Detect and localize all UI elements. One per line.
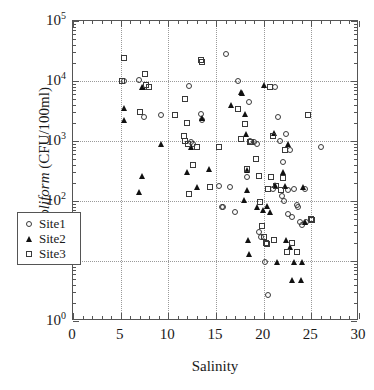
marker-open-circle <box>199 117 205 123</box>
x-tick-major <box>359 313 360 319</box>
legend-label: Site3 <box>39 246 66 262</box>
marker-open-circle <box>289 214 295 220</box>
y-tick-right-minor <box>354 52 357 53</box>
marker-open-square <box>270 133 276 139</box>
y-tick-right-minor <box>354 285 357 286</box>
y-axis-label-plain: (CFU/100ml) <box>36 87 52 172</box>
y-tick-right-minor <box>354 30 357 31</box>
marker-open-square <box>267 84 273 90</box>
marker-filled-triangle <box>139 84 145 90</box>
marker-open-square <box>242 121 248 127</box>
marker-filled-triangle <box>243 131 249 137</box>
y-tick-minor <box>73 87 76 88</box>
marker-open-square <box>280 175 286 181</box>
marker-open-square <box>207 184 213 190</box>
x-tick-minor <box>292 316 293 319</box>
x-tick-top-minor <box>102 21 103 24</box>
x-tick-top-minor <box>340 21 341 24</box>
y-tick-minor <box>73 303 76 304</box>
marker-open-square <box>199 59 205 65</box>
y-tick-right-minor <box>354 63 357 64</box>
marker-open-square <box>282 147 288 153</box>
y-tick-right-minor <box>354 243 357 244</box>
y-tick-label-exponent: 3 <box>61 130 66 141</box>
marker-open-circle <box>283 131 289 137</box>
y-tick-minor <box>73 172 76 173</box>
x-tick-top-minor <box>130 21 131 24</box>
x-tick-minor <box>149 316 150 319</box>
x-tick-top-minor <box>140 21 141 24</box>
x-tick-label: 5 <box>116 326 124 343</box>
marker-filled-triangle <box>289 277 295 283</box>
x-tick-major <box>73 313 74 319</box>
y-tick-minor <box>73 154 76 155</box>
marker-open-circle <box>279 193 285 199</box>
x-tick-top-major <box>359 21 360 27</box>
legend[interactable]: Site1Site2Site3 <box>17 212 81 265</box>
legend-item-site1[interactable]: Site1 <box>22 216 76 231</box>
marker-filled-triangle <box>206 166 212 172</box>
marker-filled-triangle <box>184 169 190 175</box>
x-tick-label: 25 <box>303 326 318 343</box>
legend-item-site3[interactable]: Site3 <box>22 246 76 261</box>
y-tick-right-minor <box>354 112 357 113</box>
x-tick-label: 15 <box>208 326 223 343</box>
x-tick-minor <box>321 316 322 319</box>
y-tick-right-major <box>351 321 357 322</box>
y-tick-right-minor <box>354 94 357 95</box>
x-tick-top-minor <box>235 21 236 24</box>
legend-item-site2[interactable]: Site2 <box>22 231 76 246</box>
legend-swatch <box>22 236 36 242</box>
legend-swatch <box>22 251 36 257</box>
legend-label: Site1 <box>39 216 66 232</box>
marker-open-square <box>256 173 262 179</box>
y-tick-minor <box>73 84 76 85</box>
gridline-horizontal <box>73 141 357 142</box>
y-tick-right-minor <box>354 183 357 184</box>
y-tick-minor <box>73 30 76 31</box>
x-tick-minor <box>245 316 246 319</box>
marker-filled-triangle <box>139 173 145 179</box>
y-tick-minor <box>73 150 76 151</box>
marker-open-square <box>26 251 32 257</box>
x-tick-minor <box>111 316 112 319</box>
x-tick-label: 0 <box>68 326 76 343</box>
marker-filled-triangle <box>194 184 200 190</box>
y-tick-right-minor <box>354 99 357 100</box>
y-tick-minor <box>73 270 76 271</box>
marker-open-square <box>235 106 241 112</box>
x-axis-label: Salinity <box>72 358 358 375</box>
marker-open-square <box>244 166 250 172</box>
marker-open-square <box>186 191 192 197</box>
y-tick-right-minor <box>354 207 357 208</box>
y-tick-label-exponent: 5 <box>61 10 66 21</box>
marker-open-square <box>194 144 200 150</box>
y-tick-major <box>73 141 79 142</box>
y-tick-major <box>73 21 79 22</box>
y-tick-right-minor <box>354 225 357 226</box>
y-tick-right-minor <box>354 159 357 160</box>
y-tick-label-exponent: 2 <box>61 190 66 201</box>
x-tick-major <box>121 313 122 319</box>
gridline-vertical <box>216 21 217 319</box>
marker-filled-triangle <box>140 84 146 90</box>
marker-open-circle <box>246 99 252 105</box>
y-tick-right-minor <box>354 154 357 155</box>
marker-open-square <box>278 187 284 193</box>
marker-open-circle <box>272 84 278 90</box>
y-tick-minor <box>73 285 76 286</box>
marker-open-square <box>172 112 178 118</box>
y-tick-right-minor <box>354 24 357 25</box>
y-tick-minor <box>73 267 76 268</box>
y-tick-right-minor <box>354 264 357 265</box>
y-tick-major <box>73 81 79 82</box>
marker-open-circle <box>285 187 291 193</box>
x-tick-minor <box>273 316 274 319</box>
y-tick-label-exponent: 0 <box>61 310 66 321</box>
x-tick-minor <box>92 316 93 319</box>
y-tick-right-minor <box>354 34 357 35</box>
y-tick-right-minor <box>354 232 357 233</box>
x-tick-top-minor <box>273 21 274 24</box>
y-tick-minor <box>73 90 76 91</box>
y-tick-right-major <box>351 21 357 22</box>
